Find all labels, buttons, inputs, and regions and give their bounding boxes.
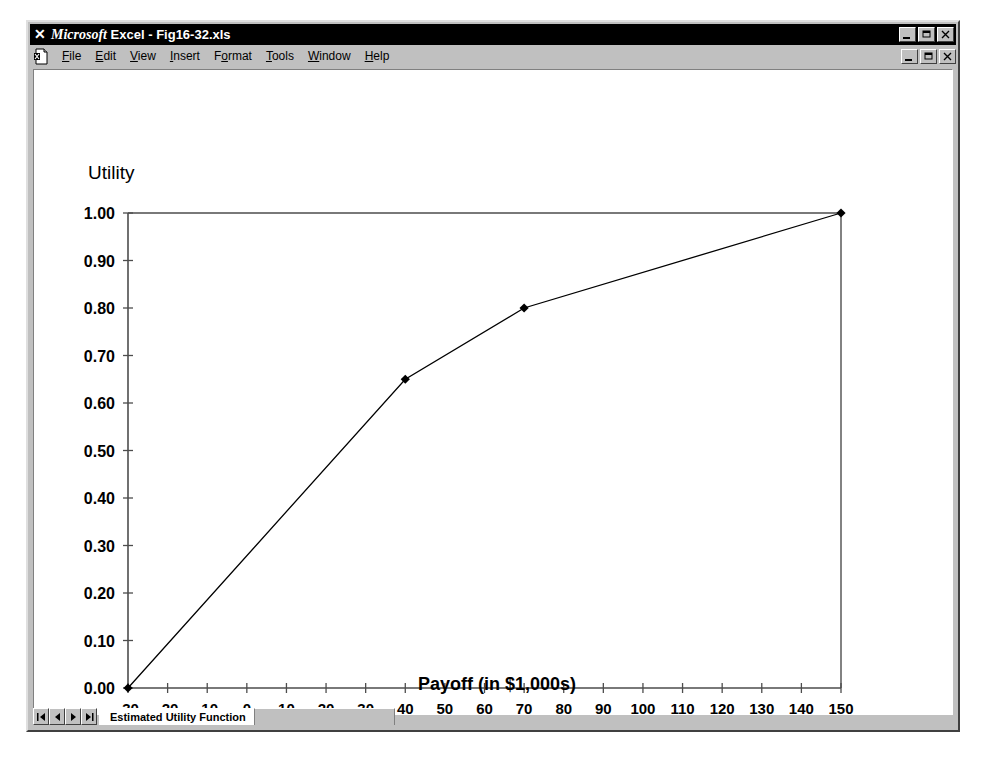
sheet-tab-empty-area <box>255 708 395 725</box>
menu-item-edit[interactable]: Edit <box>88 47 123 65</box>
chart-canvas: 0.000.100.200.300.400.500.600.700.800.90… <box>34 70 953 715</box>
workbook-client-area: Utility 0.000.100.200.300.400.500.600.70… <box>30 67 956 728</box>
menu-item-insert[interactable]: Insert <box>163 47 207 65</box>
utility-chart[interactable]: Utility 0.000.100.200.300.400.500.600.70… <box>34 70 953 715</box>
sheet-tab-bar: Estimated Utility Function <box>33 705 953 725</box>
restore-workbook-button[interactable] <box>920 49 937 64</box>
y-tick-label: 0.50 <box>84 443 115 460</box>
worksheet-surface: Utility 0.000.100.200.300.400.500.600.70… <box>33 69 953 715</box>
last-sheet-button[interactable] <box>81 708 97 725</box>
close-workbook-button[interactable] <box>939 49 956 64</box>
data-point-marker <box>836 208 845 217</box>
y-tick-label: 0.20 <box>84 585 115 602</box>
y-axis-title: Utility <box>88 162 134 184</box>
y-tick-label: 0.60 <box>84 395 115 412</box>
data-point-marker <box>520 303 529 312</box>
menu-item-format[interactable]: Format <box>207 47 259 65</box>
window-button-group <box>899 27 954 42</box>
first-sheet-button[interactable] <box>33 708 49 725</box>
window-title: Microsoft Excel - Fig16-32.xls <box>51 27 231 43</box>
workbook-button-group <box>901 49 956 64</box>
menu-item-view[interactable]: View <box>123 47 163 65</box>
y-tick-label: 0.10 <box>84 633 115 650</box>
y-tick-label: 0.30 <box>84 538 115 555</box>
y-tick-label: 1.00 <box>84 205 115 222</box>
title-bar: ✕ Microsoft Excel - Fig16-32.xls <box>30 24 956 45</box>
excel-document-icon[interactable] <box>33 48 50 65</box>
menu-item-help[interactable]: Help <box>358 47 397 65</box>
minimize-workbook-button[interactable] <box>901 49 918 64</box>
sheet-tab-label: Estimated Utility Function <box>110 711 246 723</box>
menu-item-window[interactable]: Window <box>301 47 358 65</box>
next-sheet-button[interactable] <box>65 708 81 725</box>
close-button[interactable] <box>937 27 954 42</box>
previous-sheet-button[interactable] <box>49 708 65 725</box>
x-axis-title: Payoff (in $1,000s) <box>34 674 953 695</box>
series-line <box>128 213 841 688</box>
y-tick-label: 0.70 <box>84 348 115 365</box>
window-title-document: Excel - Fig16-32.xls <box>107 27 231 42</box>
menu-item-file[interactable]: File <box>55 47 88 65</box>
excel-application-window: ✕ Microsoft Excel - Fig16-32.xls <box>26 20 960 732</box>
restore-button[interactable] <box>918 27 935 42</box>
y-tick-label: 0.40 <box>84 490 115 507</box>
sheet-tab-estimated-utility-function[interactable]: Estimated Utility Function <box>99 708 255 725</box>
menu-item-tools[interactable]: Tools <box>259 47 301 65</box>
menu-bar: File Edit View Insert Format Tools Windo… <box>30 45 956 67</box>
excel-x-icon: ✕ <box>34 28 46 42</box>
window-title-brand: Microsoft <box>51 27 107 42</box>
minimize-button[interactable] <box>899 27 916 42</box>
y-tick-label: 0.90 <box>84 253 115 270</box>
y-tick-label: 0.80 <box>84 300 115 317</box>
